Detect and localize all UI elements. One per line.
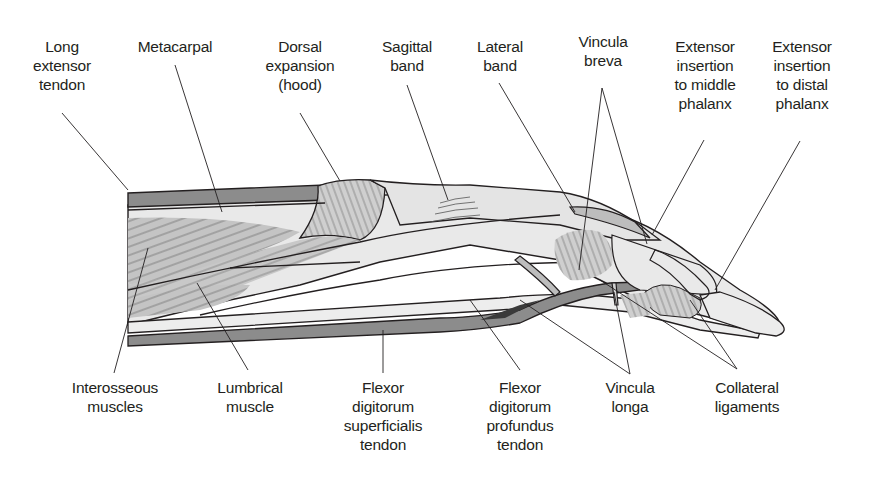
- label-vincula-longa: Vincula longa: [595, 378, 665, 416]
- label-extensor-insertion-distal: Extensor insertion to distal phalanx: [762, 37, 842, 113]
- label-dorsal-expansion: Dorsal expansion (hood): [255, 37, 345, 94]
- label-lumbrical-muscle: Lumbrical muscle: [205, 378, 295, 416]
- label-lateral-band: Lateral band: [465, 37, 535, 75]
- finger-anatomy-diagram: Long extensor tendon Metacarpal Dorsal e…: [0, 0, 874, 493]
- label-vincula-breva: Vincula breva: [568, 32, 638, 70]
- label-fds-tendon: Flexor digitorum superficialis tendon: [333, 378, 433, 454]
- label-collateral-ligaments: Collateral ligaments: [702, 378, 792, 416]
- label-long-extensor-tendon: Long extensor tendon: [32, 37, 92, 94]
- label-sagittal-band: Sagittal band: [372, 37, 442, 75]
- label-extensor-insertion-middle: Extensor insertion to middle phalanx: [660, 37, 750, 113]
- label-fdp-tendon: Flexor digitorum profundus tendon: [475, 378, 565, 454]
- label-interosseous-muscles: Interosseous muscles: [60, 378, 170, 416]
- label-metacarpal: Metacarpal: [125, 37, 225, 56]
